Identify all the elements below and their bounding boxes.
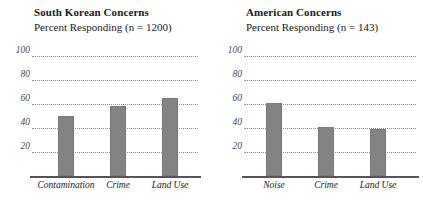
- bar-contamination: [58, 116, 74, 176]
- y-axis-tick-40: 40: [2, 117, 30, 127]
- x-axis-label-land-use: Land Use: [145, 180, 195, 190]
- gridline-100: [32, 56, 198, 57]
- y-axis-tick-20: 20: [214, 141, 242, 151]
- figure-container: South Korean Concerns Percent Responding…: [0, 0, 423, 201]
- x-axis-line: [242, 176, 419, 178]
- plot-area: 100 80 60 40 20 Noise Crime Land Use: [212, 0, 423, 201]
- chart-panel-american: American Concerns Percent Responding (n …: [212, 0, 423, 201]
- gridline-100: [244, 56, 416, 57]
- x-axis-label-land-use: Land Use: [353, 180, 403, 190]
- y-axis-tick-80: 80: [2, 69, 30, 79]
- bar-noise: [266, 103, 282, 176]
- gridline-80: [244, 80, 416, 81]
- y-axis-tick-40: 40: [214, 117, 242, 127]
- y-axis-tick-60: 60: [214, 93, 242, 103]
- y-axis-tick-20: 20: [2, 141, 30, 151]
- plot-area: 100 80 60 40 20 Contamination Crime Land…: [0, 0, 211, 201]
- bar-crime: [318, 127, 334, 176]
- bar-crime: [110, 106, 126, 176]
- x-axis-label-contamination: Contamination: [26, 180, 106, 190]
- y-axis-tick-80: 80: [214, 69, 242, 79]
- gridline-80: [32, 80, 198, 81]
- x-axis-label-crime: Crime: [306, 180, 346, 190]
- x-axis-label-noise: Noise: [249, 180, 299, 190]
- x-axis-line: [30, 176, 201, 178]
- chart-panel-south-korean: South Korean Concerns Percent Responding…: [0, 0, 211, 201]
- bar-land-use: [370, 129, 386, 176]
- y-axis-tick-60: 60: [2, 93, 30, 103]
- y-axis-tick-100: 100: [2, 45, 30, 55]
- bar-land-use: [162, 98, 178, 176]
- y-axis-tick-100: 100: [214, 45, 242, 55]
- x-axis-label-crime: Crime: [98, 180, 138, 190]
